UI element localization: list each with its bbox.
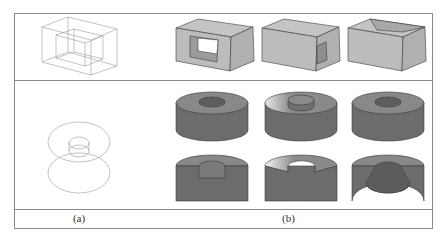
caption-a: (a) [14, 212, 144, 224]
caption-b: (b) [144, 212, 433, 224]
ring-section-3 [0, 0, 446, 241]
